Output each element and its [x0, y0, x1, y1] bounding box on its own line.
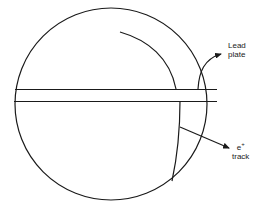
lead-plate-pointer-arrow — [198, 54, 221, 89]
lead-plate-label: Lead plate — [228, 41, 246, 59]
lead-plate — [14, 90, 217, 102]
positron-symbol: e+ — [232, 143, 249, 152]
cloud-chamber-diagram — [0, 0, 271, 214]
upper-track-arc — [120, 32, 176, 89]
lead-plate-label-line2: plate — [228, 50, 246, 59]
chamber-circle — [15, 8, 207, 200]
positron-track-label: e+ track — [232, 143, 249, 161]
positron-track-pointer-arrow — [180, 127, 229, 148]
lead-plate-label-line1: Lead — [228, 41, 246, 50]
lower-track-arc — [172, 101, 180, 181]
charge-superscript: + — [241, 141, 245, 147]
track-word: track — [232, 152, 249, 161]
